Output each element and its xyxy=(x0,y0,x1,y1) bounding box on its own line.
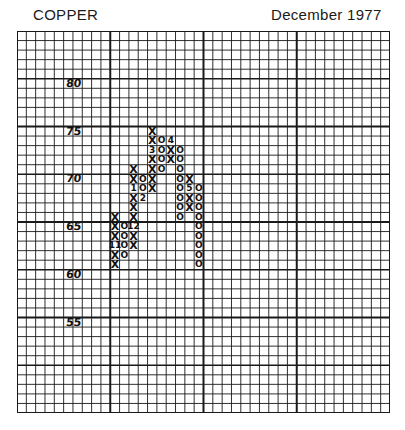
o-mark: O xyxy=(194,241,203,251)
o-mark: O xyxy=(138,174,147,184)
point-and-figure-grid: 807570656055 XX11XXXOOOOXX12XXX1XX2OOXXX… xyxy=(17,31,390,413)
y-axis-label: 65 xyxy=(65,220,82,233)
x-mark: X xyxy=(148,165,157,175)
o-mark: O xyxy=(194,232,203,242)
x-mark: X xyxy=(129,232,138,242)
x-mark: X xyxy=(110,251,119,261)
o-mark: O xyxy=(138,184,147,194)
o-mark: O xyxy=(194,212,203,222)
x-mark: X xyxy=(185,193,194,203)
o-mark: O xyxy=(176,174,185,184)
month-marker: 4 xyxy=(166,136,175,146)
o-mark: O xyxy=(176,146,185,156)
x-mark: X xyxy=(129,165,138,175)
chart-date: December 1977 xyxy=(271,6,382,23)
o-mark: O xyxy=(194,184,203,194)
o-mark: O xyxy=(194,193,203,203)
x-mark: X xyxy=(148,127,157,137)
x-mark: X xyxy=(166,146,175,156)
o-mark: O xyxy=(176,165,185,175)
o-mark: O xyxy=(194,222,203,232)
o-mark: O xyxy=(176,155,185,165)
x-mark: X xyxy=(148,155,157,165)
o-mark: O xyxy=(120,241,129,251)
x-mark: X xyxy=(129,193,138,203)
y-axis-label: 70 xyxy=(65,172,82,185)
o-mark: O xyxy=(194,203,203,213)
x-mark: X xyxy=(185,174,194,184)
o-mark: O xyxy=(176,212,185,222)
o-mark: O xyxy=(120,232,129,242)
o-mark: O xyxy=(176,184,185,194)
o-mark: O xyxy=(157,136,166,146)
x-mark: X xyxy=(110,212,119,222)
o-mark: O xyxy=(176,193,185,203)
o-mark: O xyxy=(120,251,129,261)
o-mark: O xyxy=(194,251,203,261)
y-axis-label: 55 xyxy=(65,316,82,329)
o-mark: O xyxy=(176,203,185,213)
o-mark: O xyxy=(157,155,166,165)
o-mark: O xyxy=(157,146,166,156)
y-axis-label: 75 xyxy=(65,125,82,138)
y-axis-label: 80 xyxy=(65,77,82,90)
o-mark: O xyxy=(157,165,166,175)
y-axis-label: 60 xyxy=(65,268,82,281)
chart-title: COPPER xyxy=(33,6,98,23)
o-mark: O xyxy=(194,260,203,270)
month-marker: 3 xyxy=(148,146,157,156)
month-marker: 2 xyxy=(138,193,147,203)
